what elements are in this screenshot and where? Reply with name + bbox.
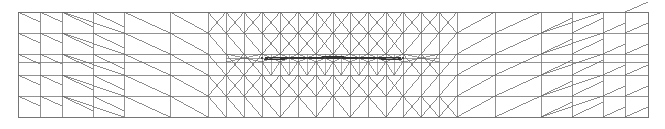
- figure-background: [0, 0, 665, 129]
- mesh-figure: Graded finite element mesh of a rectangu…: [0, 0, 665, 129]
- finite-element-mesh: Graded finite element mesh of a rectangu…: [0, 0, 665, 129]
